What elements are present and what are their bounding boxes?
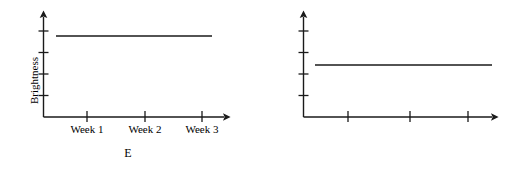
- plot-area-f: [264, 0, 528, 177]
- chart-panel-f: Brightness Week 1 Week 2 Week 3 F: [264, 0, 528, 177]
- x-tick-label-week-1-e: Week 1: [62, 123, 112, 135]
- x-tick-label-week-2-e: Week 2: [120, 123, 170, 135]
- chart-panel-e: Brightness Week 1 Week 2 Week 3 E: [0, 0, 264, 177]
- x-tick-label-week-3-e: Week 3: [177, 123, 227, 135]
- panel-label-e: E: [108, 146, 148, 161]
- figure-container: Brightness Week 1 Week 2 Week 3 E: [0, 0, 528, 177]
- y-axis-label-e: Brightness: [28, 57, 40, 104]
